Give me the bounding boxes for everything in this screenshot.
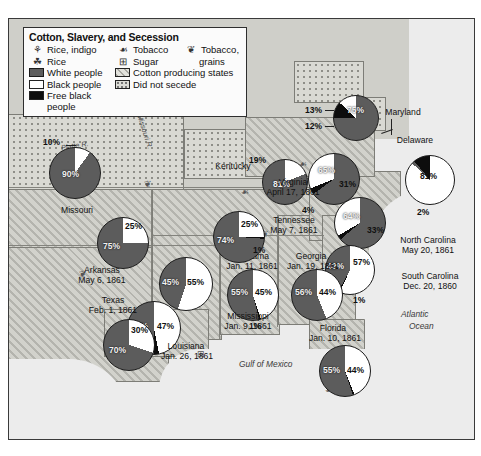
pie-maryland <box>333 95 379 141</box>
legend-item-tobacco: ☙ Tobacco <box>115 44 183 55</box>
state-label-southcarolina: South Carolina <box>387 271 473 281</box>
legend-label: grains <box>199 56 225 67</box>
legend-label: Did not secede <box>133 79 196 90</box>
legend-label: Cotton producing states <box>133 67 233 78</box>
state-date-virginia: April 17, 1861 <box>255 187 331 197</box>
legend-label: Rice <box>47 56 66 67</box>
legend-label: Rice, indigo <box>47 44 97 55</box>
state-label-missouri: Missouri <box>49 205 105 215</box>
legend-item-free-black-people: Free black people <box>29 90 115 112</box>
pie-label-florida-black: 44% <box>347 365 364 375</box>
pie-label-texas-black: 30% <box>131 325 148 335</box>
state-label-northcarolina: North Carolina <box>387 235 469 245</box>
tobacco-grains-icon: ❦ <box>144 179 152 189</box>
legend-item-cotton-states: Cotton producing states <box>115 67 233 78</box>
legend-row: White people Cotton producing states <box>29 67 242 78</box>
state-date-louisiana: Jan. 26, 1861 <box>151 351 223 361</box>
ocean-label-line1: Atlantic <box>401 309 428 319</box>
state-label-arkansas: Arkansas <box>71 265 133 275</box>
pie-label-virginia-white: 65% <box>318 165 335 175</box>
pie-label-northcarolina-white: 64% <box>343 211 360 221</box>
legend-item-tobacco-grains-cont: grains <box>183 56 225 67</box>
free-black-people-swatch <box>29 91 44 100</box>
map-legend: Cotton, Slavery, and Secession ⚘ Rice, i… <box>23 27 247 117</box>
legend-label: Tobacco <box>133 44 168 55</box>
pie-label-maryland-white: 75% <box>347 105 364 115</box>
map-canvas: ❦ ☙ ☙ ❦ ❦ ⊞ ⚘ ☙ ❦ Platte R. Missouri R. … <box>8 18 475 440</box>
pie-label-arkansas-black: 25% <box>125 221 142 231</box>
pie-label-southcarolina-black: 57% <box>353 257 370 267</box>
legend-label: Sugar <box>133 56 158 67</box>
legend-label: Black people <box>47 79 101 90</box>
rice-icon: ☘ <box>29 56 45 67</box>
pie-label-texas-white: 70% <box>109 345 126 355</box>
state-date-northcarolina: May 20, 1861 <box>387 245 469 255</box>
legend-row: ☘ Rice ⊞ Sugar grains <box>29 56 242 67</box>
legend-row: ⚘ Rice, indigo ☙ Tobacco ❦ Tobacco, <box>29 44 242 55</box>
rice-indigo-icon: ⚘ <box>29 44 45 55</box>
legend-item-rice: ☘ Rice <box>29 56 115 67</box>
state-label-georgia: Georgia <box>283 251 339 261</box>
pie-label-mississippi-black: 55% <box>187 277 204 287</box>
leader-line <box>325 126 334 127</box>
pie-label-maryland-black: 12% <box>305 121 322 131</box>
state-label-delaware: Delaware <box>387 135 443 145</box>
pie-label-arkansas-white: 75% <box>103 241 120 251</box>
pie-label-southcarolina-free: 1% <box>353 295 365 305</box>
pie-label-tennessee-black: 25% <box>241 219 258 229</box>
pie-label-maryland-free: 13% <box>305 105 322 115</box>
state-label-louisiana: Louisiana <box>155 341 217 351</box>
leader-line <box>391 119 392 135</box>
pie-label-tennessee-free: 1% <box>253 245 265 255</box>
pie-label-mississippi-white: 45% <box>162 277 179 287</box>
pie-label-georgia-black: 44% <box>319 287 336 297</box>
legend-label: Tobacco, <box>201 44 239 55</box>
state-date-arkansas: May 6, 1861 <box>65 275 139 285</box>
pie-northcarolina <box>334 197 386 249</box>
legend-item-white-people: White people <box>29 67 115 78</box>
did-not-secede-swatch <box>115 80 130 89</box>
tobacco-icon: ☙ <box>115 44 131 55</box>
pie-label-delaware-white: 81% <box>420 171 437 181</box>
cotton-states-swatch <box>115 68 130 77</box>
legend-item-sugar: ⊞ Sugar <box>115 56 183 67</box>
pie-label-louisiana-black: 47% <box>157 321 174 331</box>
pie-label-missouri-black: 10% <box>43 137 60 147</box>
pie-label-alabama-black: 45% <box>255 287 272 297</box>
state-label-maryland: Maryland <box>375 107 431 117</box>
state-label-kentucky: Kentucky <box>205 161 261 171</box>
leader-line <box>66 145 76 146</box>
legend-row: Black people Did not secede <box>29 79 242 90</box>
black-people-swatch <box>29 80 44 89</box>
pie-label-northcarolina-black: 33% <box>367 225 384 235</box>
pie-label-georgia-white: 56% <box>295 287 312 297</box>
tobacco-icon: ☙ <box>241 187 249 197</box>
white-people-swatch <box>29 68 44 77</box>
pie-label-missouri-white: 90% <box>62 169 79 179</box>
state-label-virginia: Virginia <box>265 177 321 187</box>
leader-line <box>325 110 334 111</box>
legend-item-black-people: Black people <box>29 79 115 90</box>
pie-label-florida-white: 55% <box>323 365 340 375</box>
legend-label: White people <box>47 67 102 78</box>
state-date-texas: Feb. 1, 1861 <box>75 305 151 315</box>
state-date-florida: Jan. 10, 1861 <box>297 333 373 343</box>
legend-row: Free black people <box>29 90 242 112</box>
state-date-mississippi: Jan. 9, 1861 <box>213 321 283 331</box>
legend-title: Cotton, Slavery, and Secession <box>29 31 242 43</box>
legend-item-rice-indigo: ⚘ Rice, indigo <box>29 44 115 55</box>
state-label-tennessee: Tennessee <box>263 215 325 225</box>
pie-label-virginia-black: 31% <box>339 179 356 189</box>
pie-label-delaware-black: 2% <box>417 207 429 217</box>
state-date-southcarolina: Dec. 20, 1860 <box>387 281 473 291</box>
tobacco-grains-icon: ❦ <box>183 44 199 55</box>
legend-item-tobacco-grains: ❦ Tobacco, <box>183 44 239 55</box>
state-label-texas: Texas <box>85 295 141 305</box>
pie-label-alabama-white: 55% <box>231 287 248 297</box>
state-date-alabama: Jan. 11, 1861 <box>213 261 291 271</box>
pie-label-virginia-free: 4% <box>302 205 314 215</box>
state-date-tennessee: May 7, 1861 <box>259 225 329 235</box>
state-label-mississippi: Mississippi <box>215 311 281 321</box>
ocean-label-line2: Ocean <box>409 321 434 331</box>
legend-item-did-not-secede: Did not secede <box>115 79 196 90</box>
